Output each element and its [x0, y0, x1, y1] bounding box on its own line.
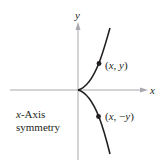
- point-label-x-neg-y: (x, −y): [105, 110, 134, 122]
- y-axis-label: y: [75, 9, 80, 21]
- point-x-neg-y: [96, 114, 101, 119]
- curve-lower-branch: [78, 90, 110, 154]
- diagram-canvas: [0, 0, 160, 167]
- x-axis-arrow-icon: [140, 88, 148, 93]
- caption-line-2: symmetry: [16, 121, 60, 133]
- caption-line-1: x-Axis: [16, 108, 45, 120]
- point-label-x-y: (x, y): [105, 59, 128, 71]
- x-axis-label: x: [150, 84, 155, 96]
- y-axis-arrow-icon: [76, 22, 81, 30]
- point-x-y: [97, 61, 102, 66]
